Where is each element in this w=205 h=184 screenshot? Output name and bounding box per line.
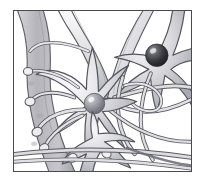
dendrite-terminal-4 [23, 68, 32, 76]
vessel-cell-3 [31, 142, 37, 146]
neuron-illustration-svg [14, 11, 191, 171]
vessel-cell-2 [37, 113, 44, 118]
nucleus-center [84, 93, 105, 114]
illustration-frame [13, 10, 192, 172]
vessel-cell-1 [28, 81, 34, 85]
illustration-canvas: Grayscale pen-and-ink style illustration… [0, 0, 205, 184]
nucleus-upper-right [146, 44, 169, 67]
